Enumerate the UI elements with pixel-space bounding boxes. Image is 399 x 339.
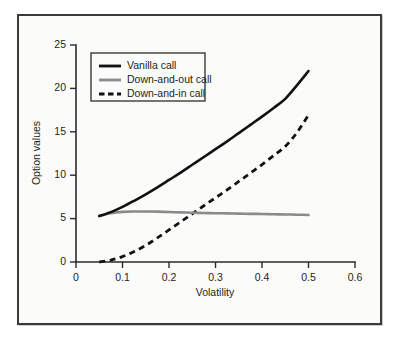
x-tick-marks (76, 262, 355, 268)
x-tick-label-0-4: 0.4 (255, 271, 270, 283)
y-tick-label-20: 20 (54, 81, 66, 93)
series-line-down-and-in-call (99, 115, 308, 262)
legend-label-vanilla-call: Vanilla call (127, 59, 176, 71)
x-tick-label-0-2: 0.2 (162, 271, 177, 283)
x-axis-title: Volatility (196, 286, 235, 298)
legend-label-down-and-out-call: Down-and-out call (127, 73, 212, 85)
series-line-down-and-out-call (99, 211, 308, 216)
y-tick-label-0: 0 (60, 255, 66, 267)
y-tick-label-25: 25 (54, 38, 66, 50)
legend: Vanilla call Down-and-out call Down-and-… (91, 53, 212, 101)
x-tick-label-0-5: 0.5 (301, 271, 316, 283)
x-tick-labels: 0 0.1 0.2 0.3 0.4 0.5 0.6 (73, 271, 362, 283)
figure-root: 25 20 15 10 5 0 Option values 0 (0, 0, 399, 339)
y-tick-label-15: 15 (54, 125, 66, 137)
y-tick-labels: 25 20 15 10 5 0 (54, 38, 66, 267)
chart-canvas: 25 20 15 10 5 0 Option values 0 (0, 0, 399, 339)
y-tick-label-5: 5 (60, 211, 66, 223)
y-tick-label-10: 10 (54, 168, 66, 180)
x-tick-label-0-6: 0.6 (348, 271, 363, 283)
x-axis-group: 0 0.1 0.2 0.3 0.4 0.5 0.6 Volatility (73, 262, 362, 298)
y-axis-group: 25 20 15 10 5 0 Option values (30, 38, 76, 267)
y-axis-title: Option values (30, 121, 42, 185)
x-tick-label-0: 0 (73, 271, 79, 283)
x-tick-label-0-3: 0.3 (208, 271, 223, 283)
x-tick-label-0-1: 0.1 (115, 271, 130, 283)
y-tick-marks (70, 45, 76, 262)
legend-label-down-and-in-call: Down-and-in call (127, 87, 205, 99)
